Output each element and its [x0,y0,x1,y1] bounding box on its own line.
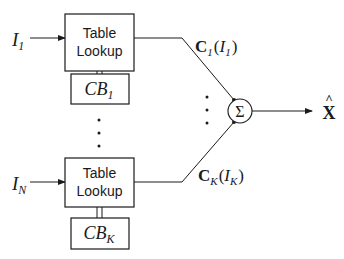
summation-node: Σ [228,99,252,123]
input-label-n: IN [11,173,27,197]
ellipsis-vertical [98,119,101,148]
diagram-canvas: I1 Table Lookup CB1 C1(I1) IN Table Look… [0,0,344,259]
table-lookup-block-1: Table Lookup [65,14,134,71]
ellipsis-summer [206,96,209,125]
codebook-connector-k [97,207,102,218]
table-lookup-label-line2: Lookup [77,43,123,59]
svg-text:X: X [323,103,336,123]
table-lookup-label-line1: Table [83,25,117,41]
codebook-block-k: CBK [71,218,129,249]
branch-output-label-1: C1(I1) [195,37,237,58]
table-lookup-label-line2: Lookup [77,183,123,199]
codebook-block-1: CB1 [71,74,129,104]
output-label: ^ X [323,91,336,123]
sigma-icon: Σ [235,103,244,120]
table-lookup-label-line1: Table [83,165,117,181]
input-label-1: I1 [11,29,24,53]
branch-output-label-k: CK(IK) [198,166,244,187]
table-lookup-block-n: Table Lookup [65,158,134,207]
